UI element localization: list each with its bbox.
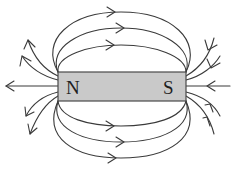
arrow-icon [205,40,217,50]
south-line-upper-2 [186,56,220,80]
bottom-loop-middle [57,101,187,142]
north-line-lower-1 [26,92,58,116]
bar-magnet-field-diagram: N S [0,0,242,169]
top-loop-middle [56,28,187,72]
south-radial-lines [186,38,230,134]
arrow-icon [203,117,210,126]
top-field-loops [53,7,191,72]
top-loop-outer [53,12,191,72]
north-pole-label: N [66,77,80,98]
south-pole-label: S [163,77,174,98]
bar-magnet: N S [58,72,186,101]
arrow-icon [207,59,220,68]
arrow-icon [25,107,34,116]
top-loop-inner [58,45,186,72]
bottom-field-loops [54,101,190,163]
bottom-loop-outer [54,101,190,158]
bottom-loop-inner [58,101,186,126]
south-line-lower-1 [186,92,220,116]
north-radial-lines [6,40,58,134]
